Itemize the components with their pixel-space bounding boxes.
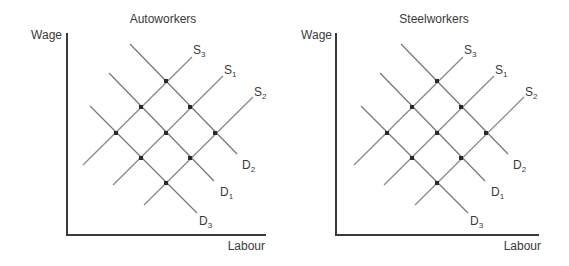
label-s3: S3	[193, 43, 206, 59]
supply-curve-s2	[144, 97, 253, 205]
demand-curve-d1	[109, 73, 214, 181]
y-axis-label: Wage	[301, 28, 332, 42]
panel-title: Steelworkers	[399, 12, 468, 26]
label-d1: D1	[491, 185, 505, 201]
panel-autoworkers: Autoworkers Wage Labour S3 S1 S2 D2 D1 D…	[31, 12, 267, 253]
demand-curve-d2	[401, 44, 508, 154]
label-s1: S1	[495, 63, 508, 79]
supply-curve-s3	[354, 57, 463, 165]
supply-curve-s1	[384, 76, 494, 185]
demand-curve-d2	[130, 44, 237, 154]
label-d2: D2	[513, 158, 527, 174]
labour-market-diagrams: Autoworkers Wage Labour S3 S1 S2 D2 D1 D…	[0, 0, 569, 266]
label-s2: S2	[525, 85, 538, 101]
demand-curve-d3	[361, 106, 468, 213]
label-d1: D1	[220, 185, 234, 201]
panel-title: Autoworkers	[130, 12, 197, 26]
y-axis-label: Wage	[31, 28, 62, 42]
label-s3: S3	[464, 43, 477, 59]
label-d2: D2	[242, 158, 256, 174]
x-axis-label: Labour	[504, 239, 541, 253]
supply-curve-s2	[415, 97, 524, 205]
x-axis-label: Labour	[228, 239, 265, 253]
label-d3: D3	[470, 214, 484, 230]
demand-curve-d3	[90, 106, 197, 213]
supply-curve-s3	[83, 57, 192, 165]
demand-curve-d1	[380, 73, 485, 181]
panel-steelworkers: Steelworkers Wage Labour S3 S1	[301, 12, 541, 253]
label-s2: S2	[254, 85, 267, 101]
label-s1: S1	[224, 63, 237, 79]
supply-curve-s1	[113, 76, 223, 185]
label-d3: D3	[199, 214, 213, 230]
